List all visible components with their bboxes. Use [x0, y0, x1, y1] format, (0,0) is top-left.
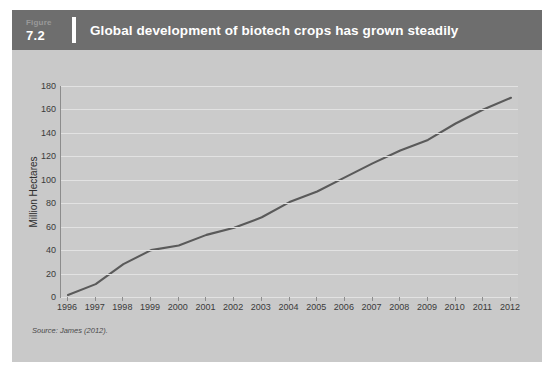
gridline	[61, 133, 518, 134]
gridline	[61, 274, 518, 275]
figure-number: 7.2	[26, 29, 45, 42]
gridline	[61, 203, 518, 204]
source-note: Source: James (2012).	[32, 326, 108, 335]
x-axis-tick-mark	[261, 297, 262, 301]
x-axis-tick-mark	[316, 297, 317, 301]
y-axis-tick-label: 100	[30, 175, 56, 185]
x-axis-tick-mark	[122, 297, 123, 301]
x-axis-tick-label: 2011	[473, 302, 492, 312]
x-axis-tick-label: 2004	[278, 302, 298, 312]
x-axis-tick-label: 1998	[112, 302, 132, 312]
gridline	[61, 250, 518, 251]
x-axis-tick-mark	[427, 297, 428, 301]
y-axis-tick-labels: 020406080100120140160180	[26, 86, 56, 297]
x-axis-tick-mark	[399, 297, 400, 301]
x-axis-tick-mark	[372, 297, 373, 301]
x-axis-tick-mark	[510, 297, 511, 301]
x-axis-tick-label: 1996	[57, 302, 77, 312]
figure-label-word: Figure	[26, 19, 52, 27]
gridline	[61, 86, 518, 87]
x-axis-tick-mark	[233, 297, 234, 301]
y-axis-tick-label: 160	[30, 104, 56, 114]
header-divider-rule	[72, 17, 76, 43]
x-axis-tick-label: 2006	[334, 302, 354, 312]
gridline	[61, 227, 518, 228]
y-axis-tick-label: 0	[30, 292, 56, 302]
x-axis-tick-mark	[344, 297, 345, 301]
x-axis-tick-label: 2009	[417, 302, 437, 312]
y-axis-tick-label: 60	[30, 222, 56, 232]
x-axis-tick-mark	[67, 297, 68, 301]
x-axis-tick-mark	[205, 297, 206, 301]
x-axis-tick-mark	[482, 297, 483, 301]
x-axis-tick-label: 1999	[140, 302, 160, 312]
y-axis-tick-label: 140	[30, 128, 56, 138]
x-axis-tick-label: 2005	[306, 302, 326, 312]
y-axis-tick-label: 40	[30, 245, 56, 255]
x-axis-tick-mark	[289, 297, 290, 301]
x-axis-tick-mark	[95, 297, 96, 301]
x-axis-tick-label: 2010	[445, 302, 465, 312]
gridline	[61, 297, 518, 298]
x-axis-tick-label: 2007	[362, 302, 382, 312]
x-axis-tick-label: 2012	[500, 302, 520, 312]
x-axis-tick-mark	[455, 297, 456, 301]
series-line-global-biotech-crop-area	[68, 98, 511, 295]
plot-area	[60, 86, 518, 298]
figure-number-block: Figure 7.2	[26, 19, 72, 42]
x-axis-tick-label: 2003	[251, 302, 271, 312]
chart-area: Million Hectares 02040608010012014016018…	[12, 50, 542, 362]
x-axis-tick-label: 2008	[389, 302, 409, 312]
x-axis-tick-label: 2001	[195, 302, 215, 312]
x-axis-tick-label: 2002	[223, 302, 243, 312]
gridline	[61, 109, 518, 110]
y-axis-tick-label: 80	[30, 198, 56, 208]
x-axis-tick-mark	[150, 297, 151, 301]
y-axis-tick-label: 120	[30, 151, 56, 161]
line-series-chart	[61, 86, 518, 297]
gridline	[61, 156, 518, 157]
x-axis-tick-mark	[178, 297, 179, 301]
figure-header-bar: Figure 7.2 Global development of biotech…	[12, 10, 542, 50]
gridline	[61, 180, 518, 181]
x-axis-tick-label: 1997	[85, 302, 105, 312]
figure-title: Global development of biotech crops has …	[90, 23, 458, 38]
y-axis-tick-label: 180	[30, 81, 56, 91]
y-axis-tick-label: 20	[30, 269, 56, 279]
x-axis-tick-label: 2000	[168, 302, 188, 312]
